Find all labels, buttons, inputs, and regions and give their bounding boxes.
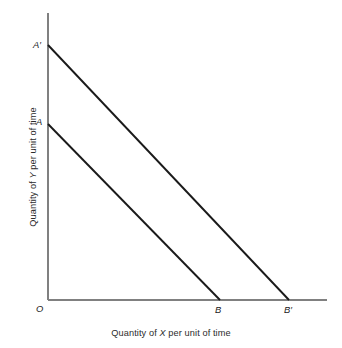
plot-area <box>0 0 342 348</box>
x-axis-title: Quantity of X per unit of time <box>0 328 342 338</box>
x-axis-title-prefix: Quantity of <box>111 328 159 338</box>
budget-line-a-prime-b-prime <box>48 45 289 300</box>
label-b-prime: B′ <box>284 305 292 314</box>
x-axis-title-suffix: per unit of time <box>166 328 231 338</box>
label-origin: O <box>36 304 43 313</box>
budget-lines-group <box>48 45 289 300</box>
budget-constraint-figure: A′ A O B B′ Quantity of Y per unit of ti… <box>0 0 342 348</box>
label-b: B <box>215 305 221 314</box>
axes-group <box>48 13 327 300</box>
y-axis-title-suffix: per unit of time <box>28 107 38 172</box>
y-axis-title-prefix: Quantity of <box>28 179 38 227</box>
label-a-prime: A′ <box>33 40 41 49</box>
budget-line-ab <box>48 124 220 300</box>
y-axis-title: Quantity of Y per unit of time <box>28 87 38 247</box>
y-axis-title-variable: Y <box>28 172 38 178</box>
